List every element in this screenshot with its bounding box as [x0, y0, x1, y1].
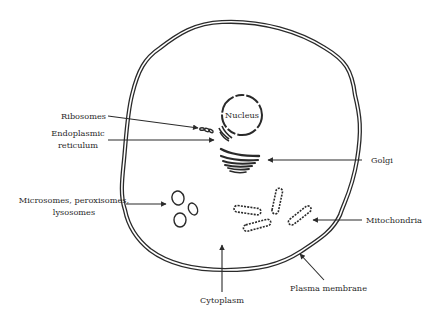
plasma-membrane-label: Plasma membrane: [290, 283, 367, 293]
ribosomes-label: Ribosomes: [48, 111, 106, 121]
mitochondria-shape: [234, 188, 313, 232]
ribosomes-shape: [200, 128, 214, 134]
label-arrows: [108, 116, 362, 292]
er-label-line2: reticulum: [40, 140, 116, 150]
ribosomes-arrow: [108, 116, 198, 128]
mitochondria-label: Mitochondria: [366, 215, 422, 225]
plasma-membrane-arrow: [300, 254, 324, 280]
golgi-shape: [221, 149, 259, 173]
er-label-line1: Endoplasmic: [40, 128, 116, 138]
plasma-membrane-shape: [122, 22, 360, 270]
microsomes-label-line1: Microsomes, peroxisomes,: [14, 195, 134, 205]
microsomes-label-line2: lysosomes: [14, 207, 134, 217]
golgi-label: Golgi: [371, 155, 393, 165]
cytoplasm-label: Cytoplasm: [192, 295, 252, 305]
nucleus-label: Nucleus: [222, 110, 262, 120]
microsomes-shape: [170, 190, 199, 227]
endoplasmic-reticulum-shape: [219, 126, 232, 141]
